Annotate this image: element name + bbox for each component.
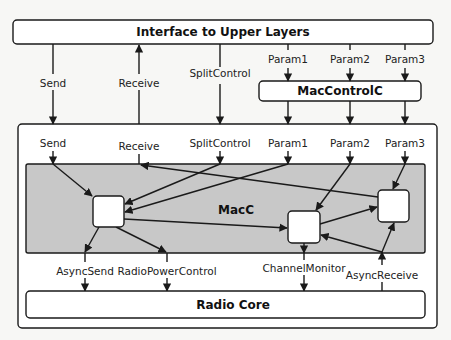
mac-control-c-box: MacControlC — [259, 81, 421, 101]
interface-upper-layers-box: Interface to Upper Layers — [13, 20, 433, 44]
upper-param1-label: Param1 — [268, 53, 308, 65]
mac-control-c-label: MacControlC — [297, 84, 383, 98]
inner-param3-label: Param3 — [385, 137, 425, 149]
mac-c-box: MacC — [26, 164, 425, 253]
inner-param1-label: Param1 — [268, 137, 308, 149]
mac-module-box-1 — [93, 196, 124, 227]
async-send-label: AsyncSend — [56, 265, 114, 277]
upper-splitcontrol-label: SplitControl — [189, 67, 250, 79]
upper-send-label: Send — [40, 77, 66, 89]
interface-upper-layers-label: Interface to Upper Layers — [136, 25, 309, 39]
radio-core-label: Radio Core — [196, 298, 270, 312]
channel-monitor-label: ChannelMonitor — [262, 262, 346, 274]
mac-module-box-2 — [288, 211, 320, 243]
mac-c-label: MacC — [218, 203, 254, 217]
upper-param2-label: Param2 — [330, 53, 370, 65]
inner-param2-label: Param2 — [330, 137, 370, 149]
mac-architecture-diagram: Interface to Upper Layers MacControlC Se… — [0, 0, 451, 340]
mac-module-box-3 — [378, 190, 409, 222]
radio-core-box: Radio Core — [26, 291, 425, 318]
upper-receive-label: Receive — [118, 77, 159, 89]
radio-power-control-label: RadioPowerControl — [117, 265, 216, 277]
inner-splitcontrol-label: SplitControl — [189, 137, 250, 149]
inner-send-label: Send — [40, 137, 66, 149]
upper-param3-label: Param3 — [385, 53, 425, 65]
inner-receive-label: Receive — [118, 140, 159, 152]
async-receive-label: AsyncReceive — [346, 269, 418, 281]
